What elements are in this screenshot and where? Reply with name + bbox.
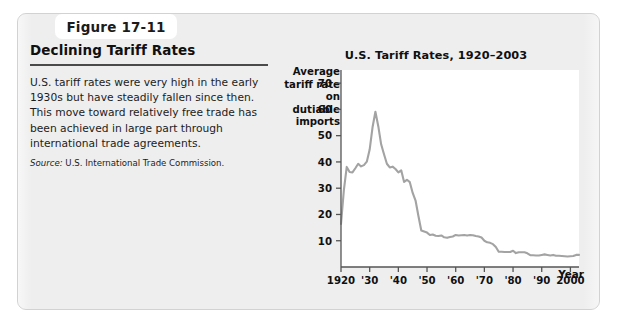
source-text: U.S. International Trade Commission. — [63, 158, 225, 168]
y-tick-label: 10 — [318, 236, 332, 247]
y-tick-label: 40 — [318, 157, 332, 168]
heading-divider — [30, 64, 268, 66]
x-tick-label: '40 — [390, 275, 407, 286]
x-tick-label: '30 — [361, 275, 378, 286]
figure-source: Source: U.S. International Trade Commiss… — [30, 158, 268, 169]
tariff-line-chart: 10203040506070 1920'30'40'50'60'70'80'90… — [282, 44, 590, 290]
x-axis-ticks: 1920'30'40'50'60'70'80'902000 — [327, 267, 585, 286]
y-tick-label: 50 — [318, 130, 332, 141]
plot-area: 10203040506070 1920'30'40'50'60'70'80'90… — [282, 44, 590, 290]
x-tick-label: '70 — [476, 275, 493, 286]
figure-screenshot: Figure 17-11 Declining Tariff Rates U.S.… — [0, 0, 617, 324]
x-tick-label: 1920 — [327, 275, 355, 286]
figure-number-tab: Figure 17-11 — [55, 14, 177, 39]
figure-number-label: Figure 17-11 — [66, 19, 165, 35]
y-axis-ticks: 10203040506070 — [318, 78, 341, 247]
x-tick-label: '80 — [504, 275, 521, 286]
x-tick-label: '90 — [533, 275, 550, 286]
figure-body-text: U.S. tariff rates were very high in the … — [30, 75, 268, 151]
y-tick-label: 30 — [318, 183, 332, 194]
y-tick-label: 60 — [318, 104, 332, 115]
y-tick-label: 70 — [318, 78, 332, 89]
x-tick-label: '60 — [447, 275, 464, 286]
chart-block: U.S. Tariff Rates, 1920–2003 Average tar… — [282, 44, 590, 290]
x-tick-label: '50 — [418, 275, 435, 286]
figure-heading: Declining Tariff Rates — [30, 42, 268, 58]
y-tick-label: 20 — [318, 209, 332, 220]
source-label: Source: — [30, 158, 63, 168]
figure-description-column: Declining Tariff Rates U.S. tariff rates… — [30, 42, 268, 169]
plot-background — [341, 70, 579, 267]
x-axis-caption: Year — [558, 268, 584, 280]
